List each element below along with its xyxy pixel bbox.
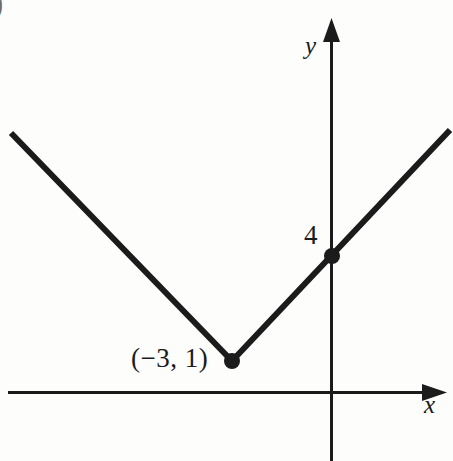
y-axis-label: y: [305, 33, 316, 58]
y-intercept-point-marker: [324, 248, 340, 264]
x-axis-label: x: [424, 392, 435, 417]
function-curve: [11, 130, 450, 361]
absolute-value-graph-figure: ) y x 4 (−3, 1): [0, 0, 453, 461]
x-axis: [8, 384, 447, 401]
vertex-coordinate-label: (−3, 1): [131, 345, 208, 372]
graph-canvas: [0, 0, 453, 461]
absolute-value-polyline: [11, 130, 450, 361]
y-axis: [323, 18, 340, 461]
y-axis-arrowhead-icon: [323, 18, 340, 42]
y-intercept-value-label: 4: [304, 222, 318, 249]
vertex-point-marker: [224, 353, 240, 369]
